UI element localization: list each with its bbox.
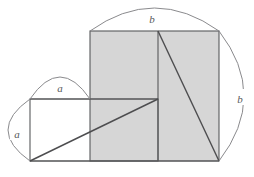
lower-right-shaded-region (90, 99, 158, 161)
geometry-figure: b b a a (0, 0, 254, 177)
arc-label-small-top-a: a (57, 82, 63, 94)
arc-label-small-left-a: a (14, 128, 20, 140)
geometry-canvas: b b a a (0, 0, 254, 177)
lower-left-unshaded-region (30, 99, 90, 161)
arc-label-top-b: b (149, 13, 155, 25)
arc-label-right-b: b (237, 93, 243, 105)
